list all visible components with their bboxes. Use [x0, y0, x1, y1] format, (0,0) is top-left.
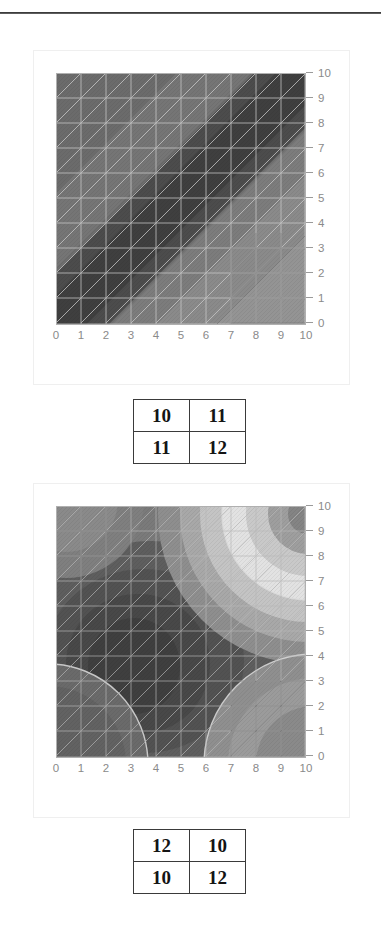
y-tick-3: 3	[306, 674, 352, 688]
y-tick-0: 0	[306, 316, 352, 330]
x-tick-2: 2	[94, 762, 118, 774]
y-tick-4: 4	[306, 216, 352, 230]
plot-wrapper-2: 10 9 8 7 6 5 4 3 2 1 0 0 1 2 3 4 5 6 7 8…	[56, 506, 306, 758]
x-tick-5: 5	[169, 762, 193, 774]
x-tick-9: 9	[269, 762, 293, 774]
contour-plot-diagonal-band	[56, 73, 306, 325]
table-row: 11 12	[134, 432, 246, 464]
x-tick-0: 0	[44, 762, 68, 774]
y-tick-10: 10	[306, 499, 352, 513]
table-row: 12 10	[134, 830, 246, 862]
y-tick-8: 8	[306, 549, 352, 563]
plot-area-1	[56, 73, 306, 325]
y-tick-9: 9	[306, 91, 352, 105]
y-tick-5: 5	[306, 191, 352, 205]
y-axis-1: 10 9 8 7 6 5 4 3 2 1 0	[306, 73, 352, 325]
x-tick-9: 9	[269, 329, 293, 341]
y-tick-2: 2	[306, 266, 352, 280]
x-tick-2: 2	[94, 329, 118, 341]
y-tick-9: 9	[306, 524, 352, 538]
x-tick-10: 10	[294, 762, 318, 774]
y-tick-7: 7	[306, 574, 352, 588]
contour-plot-radial-bands	[56, 506, 306, 758]
x-tick-1: 1	[69, 329, 93, 341]
y-tick-0: 0	[306, 749, 352, 763]
matrix-cell-r0c1: 11	[190, 400, 246, 432]
x-tick-6: 6	[194, 329, 218, 341]
x-tick-0: 0	[44, 329, 68, 341]
matrix-cell-r0c0: 12	[134, 830, 190, 862]
plot-wrapper-1: 10 9 8 7 6 5 4 3 2 1 0 0 1 2 3 4 5 6 7 8…	[56, 73, 306, 325]
figure-panel-2: 10 9 8 7 6 5 4 3 2 1 0 0 1 2 3 4 5 6 7 8…	[33, 483, 350, 818]
y-tick-1: 1	[306, 291, 352, 305]
figure-panel-1: 10 9 8 7 6 5 4 3 2 1 0 0 1 2 3 4 5 6 7 8…	[33, 50, 350, 385]
y-tick-4: 4	[306, 649, 352, 663]
y-axis-2: 10 9 8 7 6 5 4 3 2 1 0	[306, 506, 352, 758]
y-tick-5: 5	[306, 624, 352, 638]
x-tick-6: 6	[194, 762, 218, 774]
x-tick-7: 7	[219, 329, 243, 341]
x-tick-10: 10	[294, 329, 318, 341]
y-tick-1: 1	[306, 724, 352, 738]
y-tick-3: 3	[306, 241, 352, 255]
x-tick-3: 3	[119, 329, 143, 341]
y-tick-6: 6	[306, 599, 352, 613]
x-tick-1: 1	[69, 762, 93, 774]
matrix-cell-r0c1: 10	[190, 830, 246, 862]
matrix-cell-r1c0: 11	[134, 432, 190, 464]
y-tick-8: 8	[306, 116, 352, 130]
y-tick-2: 2	[306, 699, 352, 713]
x-axis-1: 0 1 2 3 4 5 6 7 8 9 10	[56, 329, 306, 347]
y-tick-10: 10	[306, 66, 352, 80]
x-tick-4: 4	[144, 329, 168, 341]
matrix-cell-r1c1: 12	[190, 862, 246, 894]
matrix-cell-r1c1: 12	[190, 432, 246, 464]
y-tick-7: 7	[306, 141, 352, 155]
page-top-rule	[0, 12, 381, 14]
x-axis-2: 0 1 2 3 4 5 6 7 8 9 10	[56, 762, 306, 780]
x-tick-5: 5	[169, 329, 193, 341]
x-tick-8: 8	[244, 329, 268, 341]
x-tick-8: 8	[244, 762, 268, 774]
matrix-cell-r0c0: 10	[134, 400, 190, 432]
table-row: 10 11	[134, 400, 246, 432]
x-tick-3: 3	[119, 762, 143, 774]
x-tick-4: 4	[144, 762, 168, 774]
plot-area-2	[56, 506, 306, 758]
matrix-cell-r1c0: 10	[134, 862, 190, 894]
y-tick-6: 6	[306, 166, 352, 180]
table-row: 10 12	[134, 862, 246, 894]
matrix-table-1: 10 11 11 12	[133, 399, 246, 464]
x-tick-7: 7	[219, 762, 243, 774]
matrix-table-2: 12 10 10 12	[133, 829, 246, 894]
